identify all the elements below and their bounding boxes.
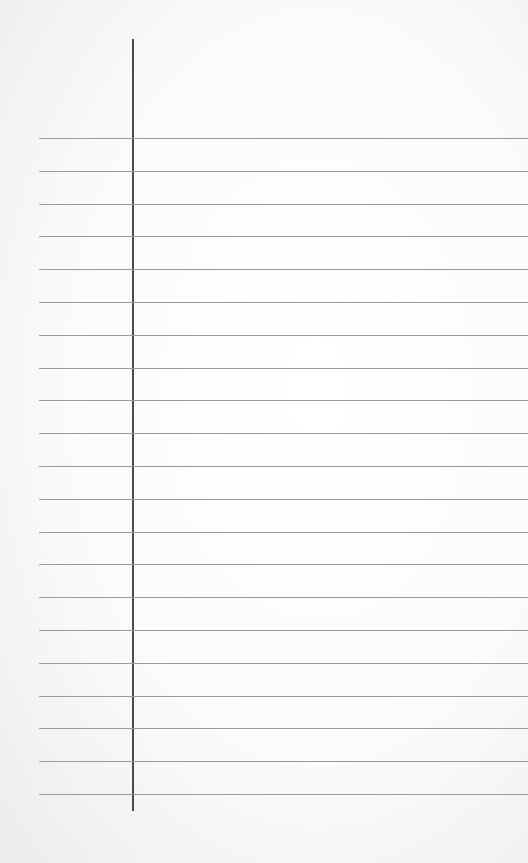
ruled-line bbox=[39, 171, 528, 172]
ruled-line bbox=[39, 663, 528, 664]
ruled-line bbox=[39, 499, 528, 500]
ruled-line bbox=[39, 335, 528, 336]
ruled-line bbox=[39, 236, 528, 237]
ruled-line bbox=[39, 532, 528, 533]
ruled-line bbox=[39, 728, 528, 729]
lined-paper bbox=[0, 0, 528, 863]
ruled-line bbox=[39, 302, 528, 303]
ruled-line bbox=[39, 696, 528, 697]
ruled-line bbox=[39, 433, 528, 434]
ruled-line bbox=[39, 597, 528, 598]
ruled-line bbox=[39, 794, 528, 795]
ruled-line bbox=[39, 466, 528, 467]
ruled-line bbox=[39, 204, 528, 205]
ruled-line bbox=[39, 269, 528, 270]
ruled-line bbox=[39, 138, 528, 139]
ruled-line bbox=[39, 630, 528, 631]
ruled-line bbox=[39, 368, 528, 369]
ruled-line bbox=[39, 400, 528, 401]
ruled-line bbox=[39, 564, 528, 565]
ruled-line bbox=[39, 761, 528, 762]
